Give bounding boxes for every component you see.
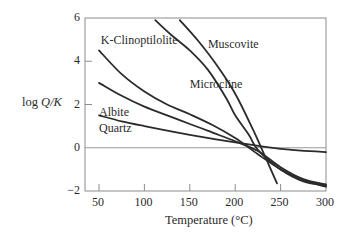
series-albite [99,83,326,185]
y-axis-label-italic: Q/K [41,95,62,109]
y-tick-label: 6 [74,11,80,23]
y-tick-label: 0 [74,141,80,153]
x-tick-label: 300 [316,196,334,208]
y-tick-label: 4 [74,54,80,66]
y-tick-label: 2 [74,98,80,110]
series-quartz [99,115,326,152]
x-tick-label: 200 [225,196,243,208]
x-tick-label: 100 [134,196,152,208]
series-k-clinoptilolite [99,50,326,186]
x-tick-label: 50 [92,196,104,208]
x-axis-label: Temperature (°C) [165,213,253,228]
label-k-clinoptilolite: K-Clinoptilolite [101,34,178,46]
y-tick-label: −2 [67,184,80,196]
label-albite: Albite [99,106,129,118]
x-tick-label: 150 [180,196,198,208]
y-axis-label-prefix: log [22,95,41,109]
label-microcline: Microcline [190,78,243,90]
y-axis-label: log Q/K [22,95,62,110]
label-quartz: Quartz [99,122,132,134]
label-muscovite: Muscovite [208,38,259,50]
x-tick-label: 250 [271,196,289,208]
